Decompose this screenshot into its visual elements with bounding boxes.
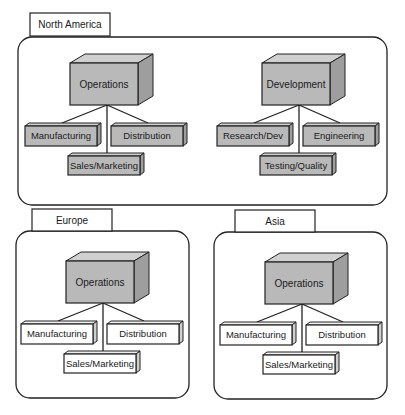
box-side-face xyxy=(332,153,336,175)
head-box: Operations xyxy=(66,252,149,303)
child-box: Sales/Marketing xyxy=(68,153,144,175)
box-label: Manufacturing xyxy=(27,328,87,339)
region-north-america: North America xyxy=(18,13,387,205)
org-unit-0-1: DevelopmentResearch/DevEngineeringTestin… xyxy=(217,54,379,175)
org-unit-2-0: OperationsManufacturingDistributionSales… xyxy=(220,253,382,374)
box-label: Sales/Marketing xyxy=(265,359,333,370)
box-label: Distribution xyxy=(119,328,167,339)
child-box: Manufacturing xyxy=(25,123,101,146)
box-side-face xyxy=(335,352,339,374)
box-label: Operations xyxy=(275,278,324,289)
box-side-face xyxy=(375,123,379,146)
box-side-face xyxy=(179,321,183,344)
box-label: Sales/Marketing xyxy=(66,358,134,369)
box-label: Operations xyxy=(76,277,125,288)
box-side-face xyxy=(140,153,144,175)
box-side-face xyxy=(183,123,187,146)
box-label: Manufacturing xyxy=(226,329,286,340)
org-unit-1-0: OperationsManufacturingDistributionSales… xyxy=(21,252,183,373)
org-unit-0-0: OperationsManufacturingDistributionSales… xyxy=(25,54,187,175)
child-box: Engineering xyxy=(303,123,379,146)
box-label: Distribution xyxy=(123,130,171,141)
head-box: Operations xyxy=(70,54,153,105)
org-diagram: North America Europe Asia OperationsManu… xyxy=(0,0,405,415)
box-label: Operations xyxy=(80,79,129,90)
child-box: Testing/Quality xyxy=(260,153,336,175)
region-label: Asia xyxy=(265,216,285,227)
box-label: Sales/Marketing xyxy=(70,160,138,171)
child-box: Distribution xyxy=(107,321,183,344)
child-box: Manufacturing xyxy=(220,322,296,345)
box-side-face xyxy=(333,253,348,304)
head-box: Development xyxy=(262,54,345,105)
child-box: Sales/Marketing xyxy=(263,352,339,374)
box-side-face xyxy=(289,123,293,146)
child-box: Manufacturing xyxy=(21,321,97,344)
child-box: Research/Dev xyxy=(217,123,293,146)
region-label: Europe xyxy=(56,215,89,226)
box-side-face xyxy=(136,351,140,373)
child-box: Distribution xyxy=(111,123,187,146)
child-box: Sales/Marketing xyxy=(64,351,140,373)
box-label: Research/Dev xyxy=(223,130,283,141)
box-side-face xyxy=(134,252,149,303)
box-label: Manufacturing xyxy=(31,130,91,141)
box-side-face xyxy=(330,54,345,105)
head-box: Operations xyxy=(265,253,348,304)
box-side-face xyxy=(292,322,296,345)
box-side-face xyxy=(138,54,153,105)
child-box: Distribution xyxy=(306,322,382,345)
box-label: Testing/Quality xyxy=(265,160,328,171)
box-label: Engineering xyxy=(314,130,365,141)
box-side-face xyxy=(378,322,382,345)
box-label: Distribution xyxy=(318,329,366,340)
region-label: North America xyxy=(38,19,102,30)
box-label: Development xyxy=(267,79,326,90)
